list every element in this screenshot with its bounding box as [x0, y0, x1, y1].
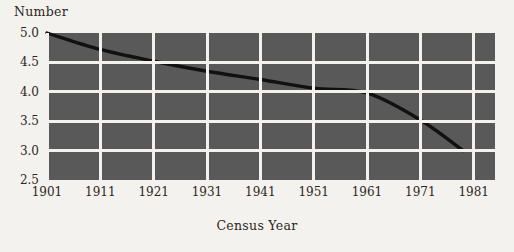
y-tick-label: 4.5: [5, 56, 39, 68]
gridline-vertical: [259, 33, 262, 180]
y-tick-label: 5.0: [5, 27, 39, 39]
y-tick-label: 4.0: [5, 86, 39, 98]
gridline-vertical: [312, 33, 315, 180]
gridline-horizontal: [47, 120, 495, 123]
data-series-line: [47, 33, 495, 180]
x-tick-label: 1921: [131, 186, 177, 198]
x-tick-label: 1961: [344, 186, 390, 198]
x-tick-label: 1931: [184, 186, 230, 198]
y-axis-title: Number: [14, 4, 68, 19]
x-tick-label: 1901: [24, 186, 70, 198]
gridline-vertical: [366, 33, 369, 180]
gridline-vertical: [206, 33, 209, 180]
gridline-vertical: [472, 33, 475, 180]
gridline-vertical: [46, 33, 49, 180]
gridline-horizontal: [47, 90, 495, 93]
gridline-horizontal: [47, 149, 495, 152]
x-tick-label: 1981: [451, 186, 497, 198]
plot-area: [47, 33, 495, 180]
gridline-vertical: [419, 33, 422, 180]
gridline-vertical: [99, 33, 102, 180]
x-tick-label: 1951: [291, 186, 337, 198]
gridline-vertical: [152, 33, 155, 180]
x-axis-title: Census Year: [0, 218, 514, 233]
x-tick-label: 1941: [237, 186, 283, 198]
gridline-horizontal: [47, 61, 495, 64]
y-tick-label: 3.0: [5, 145, 39, 157]
x-tick-label: 1971: [397, 186, 443, 198]
x-tick-label: 1911: [77, 186, 123, 198]
y-tick-label: 3.5: [5, 115, 39, 127]
line-chart-figure: Number Census Year 2.53.03.54.04.55.0190…: [0, 0, 514, 252]
